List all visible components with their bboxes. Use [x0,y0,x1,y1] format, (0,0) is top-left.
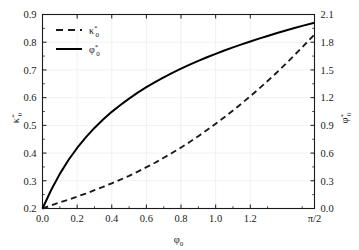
x-tick-label: 0.8 [174,213,187,224]
x-tick-label: π/2 [308,213,321,224]
y-right-tick-label: 0.3 [321,176,334,187]
x-axis-ticks [43,15,315,209]
axis-title-subscript: 0 [345,112,353,116]
x-tick-label: 0.0 [36,213,49,224]
y-right-tick-label: 1.5 [321,65,334,76]
y-right-tick-label: 1.8 [321,37,334,48]
y-left-tick-label: 0.4 [23,148,37,159]
x-axis-title: φ0 [174,234,184,248]
x-tick-label: 0.4 [105,213,119,224]
legend-label-subscript: 0 [96,31,100,39]
x-tick-label: 1.0 [209,213,222,224]
axis-title-text: κ*0 [10,112,25,123]
y-right-tick-label: 0.0 [321,203,334,214]
series-line-kappa [43,34,315,208]
x-axis-title-subscript: 0 [180,240,184,248]
y-axis-left-ticks [43,15,47,209]
y-right-tick-label: 1.2 [321,92,334,103]
y-left-tick-label: 0.8 [23,37,36,48]
y-axis-right-ticks [311,15,315,209]
y-right-tick-label: 0.6 [321,148,334,159]
y-left-tick-label: 0.7 [23,65,36,76]
axis-title-text: φ*0 [339,112,354,124]
y-right-tick-label: 2.1 [321,9,334,20]
axis-title-group: κ*0 [10,112,25,123]
x-tick-label: 0.2 [71,213,84,224]
legend-label-subscript: 0 [96,50,100,58]
y-left-tick-label: 0.6 [23,92,36,103]
axes-box [43,15,315,209]
plot-frame [43,15,315,209]
chart-legend: κ*0φ*0 [56,24,100,58]
legend-label-kappa: κ*0 [89,24,100,39]
y-right-tick-label: 0.9 [321,120,334,131]
axis-title-group: φ*0 [339,112,354,124]
x-axis-tick-labels: 0.00.20.40.60.81.01.2π/2 [36,213,321,224]
y-axis-right-tick-labels: 0.00.30.60.91.21.51.82.1 [321,9,334,214]
y-left-tick-label: 0.9 [23,9,36,20]
x-tick-label: 0.6 [140,213,153,224]
legend-label-phi: φ*0 [89,43,100,58]
chart-canvas: 0.00.20.40.60.81.01.2π/2 0.20.30.40.50.6… [0,0,359,250]
y-left-tick-label: 0.3 [23,176,36,187]
y-axis-left-tick-labels: 0.20.30.40.50.60.70.80.9 [23,9,37,214]
x-tick-label: 1.2 [244,213,257,224]
axis-title-subscript: 0 [16,112,24,116]
gridlines [43,15,315,209]
figure-container: 0.00.20.40.60.81.01.2π/2 0.20.30.40.50.6… [0,0,359,250]
y-left-tick-label: 0.5 [23,120,36,131]
y-left-tick-label: 0.2 [23,203,36,214]
